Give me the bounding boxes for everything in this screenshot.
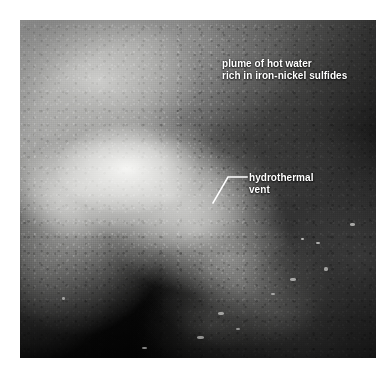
vent-label: hydrothermal vent: [249, 172, 314, 197]
plume-label-line-1: plume of hot water: [222, 58, 347, 70]
figure-page: plume of hot water rich in iron-nickel s…: [0, 0, 386, 373]
plume-label-line-2: rich in iron-nickel sulfides: [222, 70, 347, 82]
hydrothermal-vent-photograph: plume of hot water rich in iron-nickel s…: [20, 20, 376, 358]
vent-label-line-2: vent: [249, 184, 314, 196]
plume-label: plume of hot water rich in iron-nickel s…: [222, 58, 347, 83]
vent-label-line-1: hydrothermal: [249, 172, 314, 184]
